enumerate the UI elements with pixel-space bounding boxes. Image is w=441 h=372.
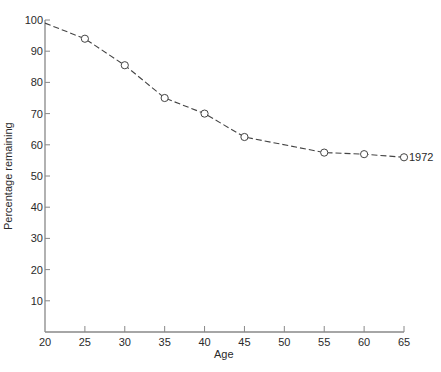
data-point-marker [361,151,368,158]
data-point-marker [400,154,407,161]
y-tick-label: 10 [31,295,43,307]
data-point-marker [241,133,248,140]
x-tick-label: 20 [39,336,51,348]
x-tick-label: 30 [119,336,131,348]
y-tick-label: 90 [31,45,43,57]
y-tick-label: 100 [25,14,43,26]
x-tick-label: 45 [238,336,250,348]
y-tick-label: 30 [31,232,43,244]
line-chart: 1020304050607080901002025303540455055606… [0,0,441,372]
series-line [45,23,404,157]
series-end-label: 1972 [409,151,433,163]
data-point-marker [81,35,88,42]
x-tick-label: 40 [198,336,210,348]
x-axis-label: Age [214,348,234,360]
y-tick-label: 70 [31,108,43,120]
x-tick-label: 65 [398,336,410,348]
data-point-marker [161,94,168,101]
x-tick-label: 25 [79,336,91,348]
y-tick-label: 40 [31,201,43,213]
y-tick-label: 60 [31,139,43,151]
y-tick-label: 50 [31,170,43,182]
x-tick-label: 55 [318,336,330,348]
x-tick-label: 35 [159,336,171,348]
x-tick-label: 50 [278,336,290,348]
y-tick-label: 80 [31,76,43,88]
y-axis-label: Percentage remaining [2,122,14,230]
data-point-marker [201,110,208,117]
y-tick-label: 20 [31,264,43,276]
data-point-marker [321,149,328,156]
data-point-marker [121,62,128,69]
x-tick-label: 60 [358,336,370,348]
